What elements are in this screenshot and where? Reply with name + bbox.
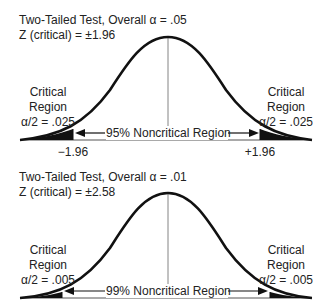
panel-2-left-region-line1: Critical <box>18 243 78 257</box>
panel-2-right-region-line2: Region <box>256 258 316 272</box>
panel-1-left-tick: −1.96 <box>53 145 93 159</box>
panel-1-right-region-alpha: α/2 = .025 <box>256 115 316 129</box>
panel-2-title: Two-Tailed Test, Overall α = .01 <box>19 170 187 184</box>
panel-1-right-tick: +1.96 <box>240 145 280 159</box>
panel-1-left-region-line1: Critical <box>18 85 78 99</box>
panel-1-noncritical-label: 95% Noncritical Region <box>106 126 228 140</box>
panel-1-zcrit: Z (critical) = ±1.96 <box>19 28 115 42</box>
panel-1-left-region-alpha: α/2 = .025 <box>18 115 78 129</box>
panel-1-left-region-line2: Region <box>18 100 78 114</box>
panel-2-left-region-alpha: α/2 = .005 <box>18 273 78 287</box>
panel-1-right-region-line1: Critical <box>256 85 316 99</box>
panel-2-left-region-line2: Region <box>18 258 78 272</box>
panel-1-title: Two-Tailed Test, Overall α = .05 <box>19 13 187 27</box>
panel-2-right-region-alpha: α/2 = .005 <box>256 273 316 287</box>
panel-1-right-region-line2: Region <box>256 100 316 114</box>
panel-2-zcrit: Z (critical) = ±2.58 <box>19 185 115 199</box>
panel-2-right-region-line1: Critical <box>256 243 316 257</box>
panel-2-noncritical-label: 99% Noncritical Region <box>106 284 228 298</box>
